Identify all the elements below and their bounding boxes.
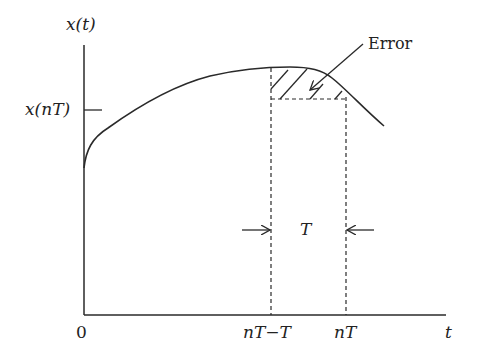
x-axis-label: t: [445, 322, 452, 342]
error-hatch: [271, 69, 342, 99]
y-tick-label: x(nT): [25, 99, 70, 119]
error-label: Error: [368, 34, 412, 53]
sampling-error-diagram: x(t) x(nT) Error T 0 nT−T nT t: [0, 0, 479, 358]
x-tick-nT: nT: [334, 322, 356, 342]
diagram-graphics: [0, 0, 479, 358]
signal-curve: [84, 67, 384, 168]
x-tick-0: 0: [76, 322, 87, 342]
x-tick-nT-minus-T: nT−T: [243, 322, 291, 342]
y-axis-label: x(t): [66, 14, 96, 34]
interval-label: T: [300, 219, 311, 239]
error-pointer-arrow: [310, 44, 363, 90]
